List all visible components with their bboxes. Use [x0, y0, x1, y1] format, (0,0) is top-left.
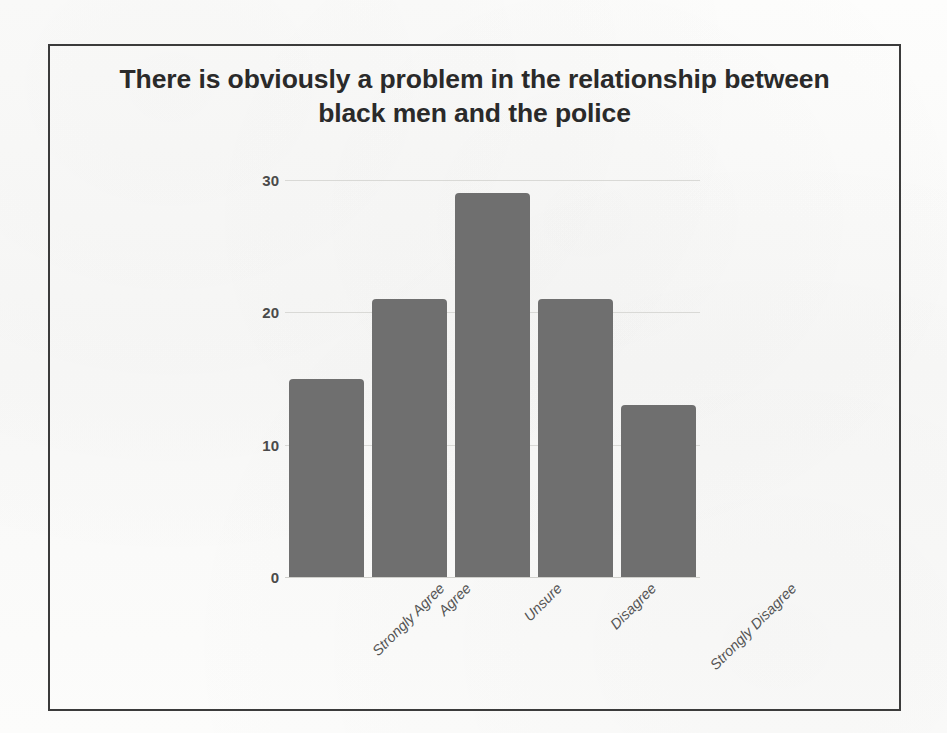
- x-tick-label-strongly-agree: Strongly Agree: [368, 580, 447, 659]
- x-tick-label-disagree: Disagree: [606, 580, 658, 632]
- x-tick-label-unsure: Unsure: [520, 580, 564, 624]
- y-axis-tick-labels: 0102030: [217, 180, 279, 577]
- y-tick-label-20: 20: [219, 304, 279, 321]
- gridline-0: [285, 577, 700, 578]
- slide-page: There is obviously a problem in the rela…: [0, 0, 947, 733]
- bar-disagree[interactable]: [538, 299, 613, 577]
- bar-series: [285, 180, 700, 577]
- chart-title: There is obviously a problem in the rela…: [48, 62, 901, 130]
- x-axis-tick-labels: Strongly AgreeAgreeUnsureDisagreeStrongl…: [285, 580, 700, 700]
- bar-strongly-agree[interactable]: [289, 379, 364, 578]
- bar-agree[interactable]: [372, 299, 447, 577]
- y-tick-label-0: 0: [219, 569, 279, 586]
- bar-unsure[interactable]: [455, 193, 530, 577]
- bar-strongly-disagree[interactable]: [621, 405, 696, 577]
- y-tick-label-10: 10: [219, 436, 279, 453]
- y-tick-label-30: 30: [219, 172, 279, 189]
